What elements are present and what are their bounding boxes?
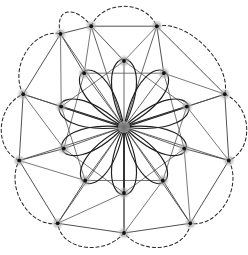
graph-node-outer bbox=[227, 159, 231, 163]
graph-node-inner bbox=[122, 59, 126, 63]
graph-node-outer bbox=[188, 221, 192, 225]
graph-node-outer bbox=[56, 221, 60, 225]
graph-node-outer bbox=[223, 92, 227, 96]
graph-node-inner bbox=[59, 105, 63, 109]
graph-node-inner bbox=[82, 71, 86, 75]
graph-node-outer bbox=[122, 231, 126, 235]
graph-node-inner bbox=[62, 147, 66, 151]
graph-figure bbox=[0, 0, 248, 255]
graph-canvas bbox=[0, 0, 248, 255]
graph-node-outer bbox=[155, 24, 159, 28]
graph-node-inner bbox=[83, 179, 87, 183]
graph-node-outer bbox=[17, 159, 21, 163]
graph-hub-node bbox=[123, 126, 126, 129]
graph-node-outer bbox=[21, 92, 25, 96]
graph-node-outer bbox=[59, 32, 63, 36]
graph-node-inner bbox=[122, 191, 126, 195]
graph-node-inner bbox=[185, 105, 189, 109]
graph-node-inner bbox=[182, 147, 186, 151]
graph-node-inner bbox=[162, 71, 166, 75]
graph-node-inner bbox=[161, 179, 165, 183]
graph-node-outer bbox=[89, 24, 93, 28]
